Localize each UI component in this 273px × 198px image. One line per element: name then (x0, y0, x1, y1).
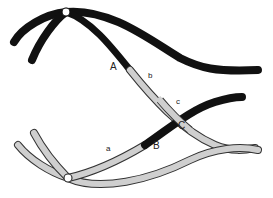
label-c: c (176, 97, 180, 106)
label-B: B (153, 140, 160, 151)
dark-chromosome-right-arm-upper (66, 12, 258, 71)
label-A: A (110, 61, 117, 72)
label-b: b (148, 71, 153, 80)
label-C: C (178, 120, 185, 131)
crossing-over-diagram: A b c C B a (0, 0, 273, 198)
centromere-bottom (64, 174, 72, 182)
label-a: a (106, 144, 111, 153)
centromere-top (62, 8, 70, 16)
